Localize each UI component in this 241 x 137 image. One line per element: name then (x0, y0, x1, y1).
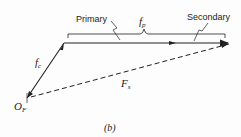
vector-diagram: Primary Secondary fp fc Fs OF (b) (0, 0, 241, 137)
primary-leader (111, 21, 120, 40)
secondary-leader (194, 23, 208, 41)
Fs-label: Fs (120, 77, 131, 91)
caption: (b) (104, 122, 116, 134)
secondary-label: Secondary (187, 12, 231, 22)
fc-label: fc (35, 56, 42, 70)
primary-arrowhead (169, 41, 176, 45)
Fs-arrowhead (221, 44, 228, 48)
fp-brace (68, 29, 225, 38)
fp-label: fp (139, 15, 146, 29)
primary-label: Primary (76, 14, 107, 24)
origin-label: OF (14, 100, 27, 114)
